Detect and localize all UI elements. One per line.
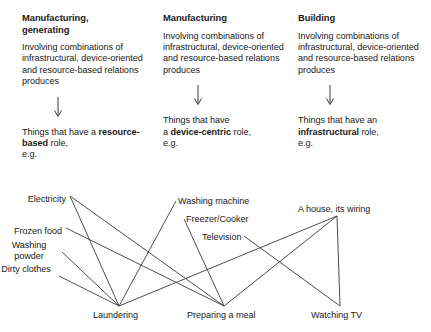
column-title: Manufacturing,generating (22, 12, 152, 35)
column-body: Involving combinations of infrastructura… (163, 31, 285, 77)
network-node-freezer-cooker[interactable]: Freezer/Cooker (186, 214, 248, 225)
network-node-house-wiring[interactable]: A house, its wiring (298, 204, 370, 215)
columns-section: Manufacturing,generating Involving combi… (0, 0, 431, 176)
footer-suffix: role, (231, 127, 251, 137)
footer-bold-term: device-centric (170, 127, 230, 137)
network-node-laundering[interactable]: Laundering (93, 310, 138, 321)
network-node-television[interactable]: Television (202, 232, 241, 243)
footer-prefix: Things that have a (22, 127, 96, 137)
footer-prefix: Things that have an (298, 115, 377, 125)
network-edge (244, 236, 340, 306)
network-node-washing-powder[interactable]: Washing powder (0, 240, 58, 261)
column-body: Involving combinations of infrastructura… (298, 31, 420, 77)
down-arrow-icon (22, 97, 152, 119)
column-footer: Things that have aninfrastructural role,… (298, 115, 420, 149)
footer-eg: e.g. (22, 149, 37, 159)
network-node-washing-machine[interactable]: Washing machine (178, 196, 249, 207)
column-body: Involving combinations of infrastructura… (22, 42, 152, 88)
column-title: Manufacturing (163, 12, 285, 24)
down-arrow-icon (163, 85, 285, 107)
network-node-frozen-food[interactable]: Frozen food (14, 226, 62, 237)
network-edge (62, 252, 119, 306)
network-edge (70, 196, 224, 306)
network-edge (119, 216, 337, 306)
footer-suffix: role, (48, 138, 68, 148)
network-edge (337, 216, 340, 306)
column-footer: Things that havea device-centric role,e.… (163, 115, 285, 149)
network-node-dirty-clothes[interactable]: Dirty clothes (0, 264, 55, 275)
down-arrow-icon (298, 85, 420, 107)
network-edge (59, 276, 119, 306)
column-footer: Things that have a resource-based role,e… (22, 127, 152, 161)
column-manufacturing: Manufacturing Involving combinations of … (163, 12, 285, 149)
footer-suffix: role, (359, 127, 379, 137)
footer-eg: e.g. (298, 138, 313, 148)
column-manufacturing-generating: Manufacturing,generating Involving combi… (22, 12, 152, 161)
footer-prefix: Things that have (163, 115, 229, 125)
network-node-watching-tv[interactable]: Watching TV (311, 310, 362, 321)
network-node-preparing-meal[interactable]: Preparing a meal (187, 310, 255, 321)
network-diagram: ElectricityFrozen foodWashing powderDirt… (0, 176, 431, 332)
network-edge (224, 216, 337, 306)
footer-bold-term: infrastructural (298, 127, 359, 137)
diagram-page: Manufacturing,generating Involving combi… (0, 0, 431, 332)
network-edge (119, 201, 176, 306)
network-edge (66, 228, 224, 306)
network-node-electricity[interactable]: Electricity (28, 194, 66, 205)
column-building: Building Involving combinations of infra… (298, 12, 420, 149)
footer-eg: e.g. (163, 138, 178, 148)
column-title: Building (298, 12, 420, 24)
